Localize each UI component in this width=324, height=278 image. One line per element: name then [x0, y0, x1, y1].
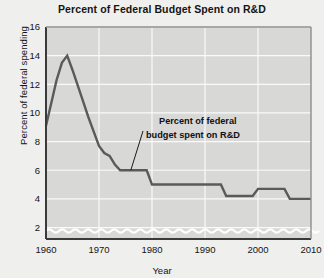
svg-text:4: 4 [35, 193, 40, 204]
svg-text:14: 14 [29, 50, 40, 61]
annotation-line-1: Percent of federal [159, 116, 237, 126]
svg-text:1960: 1960 [35, 244, 56, 255]
svg-text:1990: 1990 [194, 244, 215, 255]
svg-text:1980: 1980 [141, 244, 162, 255]
svg-text:12: 12 [29, 79, 40, 90]
svg-text:10: 10 [29, 107, 40, 118]
x-tick-labels: 196019701980199020002010 [35, 244, 321, 255]
y-tick-labels: 161412108642 [29, 21, 40, 233]
svg-text:2010: 2010 [300, 244, 321, 255]
svg-text:2: 2 [35, 222, 40, 233]
svg-text:6: 6 [35, 165, 40, 176]
svg-text:1970: 1970 [88, 244, 109, 255]
svg-text:2000: 2000 [247, 244, 268, 255]
chart-figure: Percent of Federal Budget Spent on R&D P… [0, 0, 324, 278]
svg-text:8: 8 [35, 136, 40, 147]
annotation-line-2: budget spent on R&D [146, 130, 240, 140]
plot-area: 161412108642 196019701980199020002010 Pe… [0, 0, 324, 278]
svg-text:16: 16 [29, 21, 40, 32]
